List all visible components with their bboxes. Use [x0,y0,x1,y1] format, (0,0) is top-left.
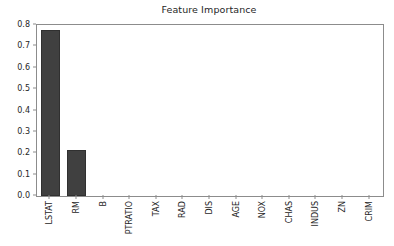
x-tick-label-text: LSTAT [45,201,54,225]
x-tick-mark [49,195,50,199]
y-tick-label: 0.6 [17,62,30,71]
y-tick-label: 0.7 [17,41,30,50]
x-tick-mark [129,195,130,199]
x-tick-label-text: CRIM [364,201,373,221]
x-tick-mark [262,195,263,199]
y-tick-label: 0.0 [17,191,30,200]
x-tick-label-text: AGE [231,201,240,218]
bars-layer [37,25,383,196]
x-tick-label-text: TAX [151,201,160,216]
x-tick-mark [368,195,369,199]
x-tick-label-text: RM [71,201,80,213]
x-tick-label-text: NOX [258,201,267,218]
y-tick-label: 0.1 [17,169,30,178]
x-tick-label-text: ZN [338,201,347,212]
x-tick-label-text: INDUS [311,201,320,226]
x-tick-label-text: DIS [205,201,214,215]
x-tick-mark [209,195,210,199]
y-tick-label: 0.5 [17,84,30,93]
bar [67,150,86,196]
y-tick-label: 0.8 [17,20,30,29]
x-tick-label-text: RAD [178,201,187,218]
x-tick-mark [288,195,289,199]
x-tick-label-text: CHAS [284,201,293,223]
y-tick-label: 0.2 [17,148,30,157]
x-tick-mark [342,195,343,199]
y-axis: 0.00.10.20.30.40.50.60.70.8 [0,24,36,196]
x-tick-label-text: B [98,201,107,207]
plot-area [36,24,384,197]
x-axis: LSTATRMBPTRATIOTAXRADDISAGENOXCHASINDUSZ… [36,195,382,246]
x-tick-mark [315,195,316,199]
figure-canvas: Feature Importance 0.00.10.20.30.40.50.6… [0,0,394,246]
chart-title: Feature Importance [36,4,382,15]
x-tick-mark [75,195,76,199]
x-tick-mark [102,195,103,199]
y-tick-label: 0.3 [17,126,30,135]
y-tick-label: 0.4 [17,105,30,114]
bar [41,30,60,196]
x-tick-label-text: PTRATIO [125,201,134,234]
x-tick-mark [182,195,183,199]
x-tick-mark [235,195,236,199]
x-tick-mark [155,195,156,199]
